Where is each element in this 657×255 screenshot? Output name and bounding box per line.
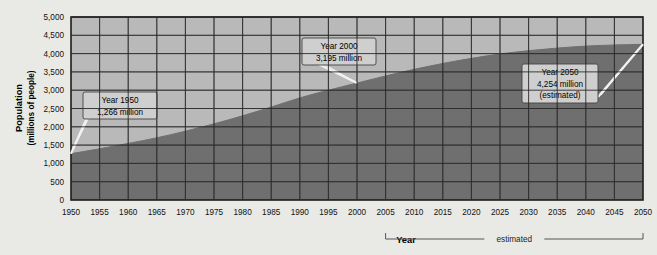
x-axis-tick-label: 2025 bbox=[491, 208, 510, 217]
x-axis-tick-label: 2040 bbox=[577, 208, 596, 217]
x-axis-tick-label: 1950 bbox=[62, 208, 81, 217]
x-axis-tick-label: 2035 bbox=[548, 208, 567, 217]
annotation-label: (estimated) bbox=[540, 91, 581, 100]
x-axis-tick-label: 1965 bbox=[148, 208, 167, 217]
x-axis-tick-labels: 1950195519601965197019751980198519901995… bbox=[62, 208, 653, 217]
y-axis-tick-label: 1,000 bbox=[44, 159, 65, 168]
y-axis-tick-label: 500 bbox=[50, 178, 64, 187]
x-axis-tick-label: 1955 bbox=[90, 208, 109, 217]
x-axis-title: Year bbox=[396, 235, 416, 245]
x-axis-tick-label: 2005 bbox=[376, 208, 395, 217]
y-axis-tick-label: 4,000 bbox=[44, 50, 65, 59]
annotation-label: 4,254 million bbox=[537, 80, 583, 89]
y-axis-tick-label: 1,500 bbox=[44, 141, 65, 150]
y-axis-tick-label: 3,000 bbox=[44, 86, 65, 95]
x-axis-tick-label: 1960 bbox=[119, 208, 138, 217]
y-axis-tick-label: 0 bbox=[59, 196, 64, 205]
y-axis-tick-label: 2,000 bbox=[44, 123, 65, 132]
estimated-bracket-label: estimated bbox=[497, 235, 533, 244]
x-axis-tick-label: 2030 bbox=[519, 208, 538, 217]
x-axis-tick-label: 2045 bbox=[605, 208, 624, 217]
chart-canvas: 05001,0001,5002,0002,5003,0003,5004,0004… bbox=[0, 0, 657, 255]
x-axis-tick-label: 2015 bbox=[434, 208, 453, 217]
y-axis-title-main: Population bbox=[14, 84, 24, 132]
x-axis-tick-label: 2020 bbox=[462, 208, 481, 217]
annotation-label: Year 2000 bbox=[320, 42, 357, 51]
annotation-label: Year 1950 bbox=[101, 96, 138, 105]
y-axis-title-sub: (millions of people) bbox=[27, 70, 36, 145]
annotation-label: 3,195 million bbox=[316, 54, 362, 63]
x-axis-tick-label: 2010 bbox=[405, 208, 424, 217]
x-axis-tick-label: 1975 bbox=[205, 208, 224, 217]
y-axis-tick-label: 2,500 bbox=[44, 105, 65, 114]
annotation-label: Year 2050 bbox=[541, 68, 578, 77]
x-axis-tick-label: 2050 bbox=[634, 208, 653, 217]
x-axis-tick-label: 1985 bbox=[262, 208, 281, 217]
y-axis-tick-label: 5,000 bbox=[44, 13, 65, 22]
population-area-chart: 05001,0001,5002,0002,5003,0003,5004,0004… bbox=[0, 0, 657, 255]
x-axis-tick-label: 1970 bbox=[176, 208, 195, 217]
x-axis-tick-label: 1980 bbox=[233, 208, 252, 217]
y-axis-tick-label: 3,500 bbox=[44, 68, 65, 77]
x-axis-tick-label: 2000 bbox=[348, 208, 367, 217]
x-axis-tick-label: 1990 bbox=[291, 208, 310, 217]
y-axis-tick-label: 4,500 bbox=[44, 31, 65, 40]
x-axis-tick-label: 1995 bbox=[319, 208, 338, 217]
